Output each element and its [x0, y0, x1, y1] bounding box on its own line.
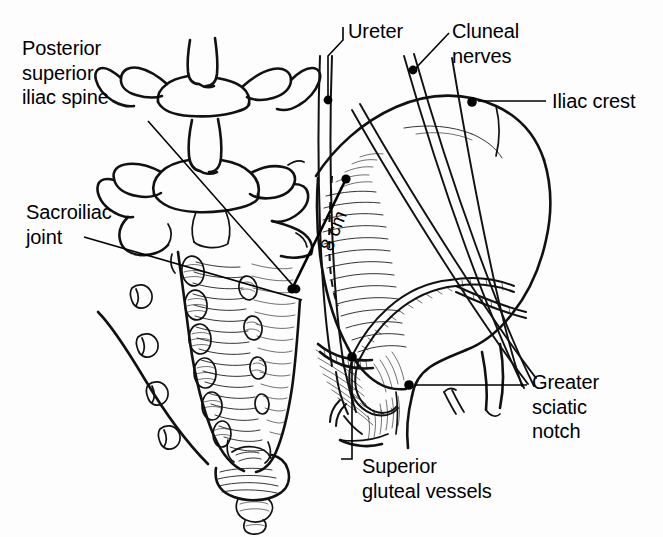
- label-greater-sciatic-notch: Greater sciatic notch: [532, 370, 599, 444]
- label-iliac-crest: Iliac crest: [552, 89, 635, 114]
- label-ureter: Ureter: [348, 19, 403, 44]
- label-posterior-superior-iliac-spine: Posterior superior iliac spine: [22, 36, 109, 110]
- label-cluneal-nerves: Cluneal nerves: [452, 19, 519, 68]
- posterior-sacral-foramina: [237, 275, 270, 415]
- anatomy-figure: Posterior superior iliac spine Sacroilia…: [0, 0, 663, 537]
- sacrum-group: [131, 252, 301, 472]
- label-superior-gluteal-vessels: Superior gluteal vessels: [362, 454, 492, 503]
- lumbar-vertebrae-group: [95, 38, 320, 273]
- label-sacroiliac-joint: Sacroiliac joint: [26, 200, 112, 249]
